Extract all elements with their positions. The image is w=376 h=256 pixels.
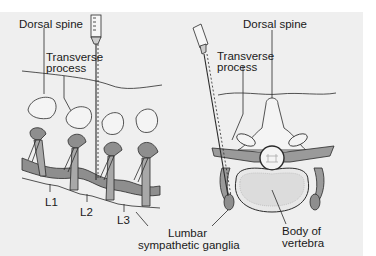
label-dorsal-spine-right: Dorsal spine [243,18,307,30]
label-transverse-right-2: process [217,61,257,73]
label-l3: L3 [117,214,130,226]
label-l2: L2 [80,206,93,218]
label-body-1: Body of [282,225,321,237]
label-transverse-left-2: process [46,62,86,74]
label-ganglia-2: sympathetic ganglia [138,239,240,251]
label-ganglia-1: Lumbar [168,227,207,239]
label-body-2: vertebra [282,237,324,249]
label-l1: L1 [45,196,58,208]
left-needle [91,15,101,180]
left-lateral-view [22,15,162,226]
label-dorsal-spine-left: Dorsal spine [19,18,83,30]
spine-illustration [0,0,376,256]
